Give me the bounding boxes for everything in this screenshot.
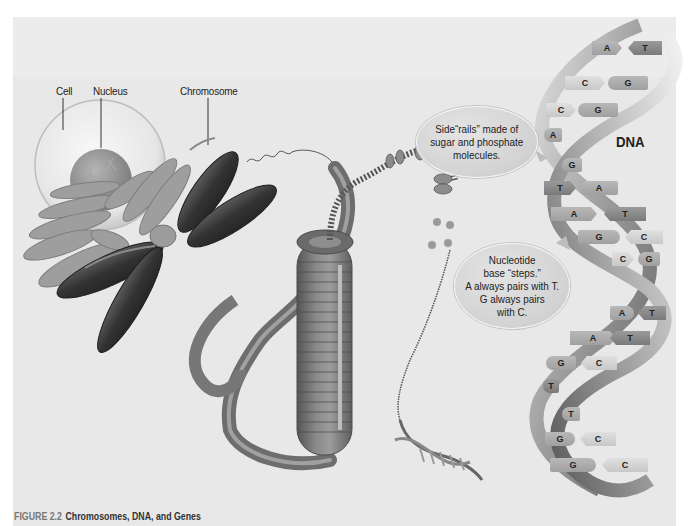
- base-pair-11-right: C: [581, 356, 617, 370]
- base-pair-4-left: G: [562, 158, 582, 172]
- figure-title: Chromosomes, DNA, and Genes: [65, 511, 200, 522]
- cell-label: Cell: [56, 85, 72, 97]
- base-pair-10-left: A: [570, 331, 616, 345]
- dna-label: DNA: [616, 133, 645, 150]
- side-rails-callout: Side“rails” made of sugar and phosphate …: [416, 106, 538, 178]
- base-pair-7-left: G: [578, 230, 620, 244]
- base-pair-15-right: C: [602, 458, 648, 472]
- side-rails-callout-text: Side“rails” made of sugar and phosphate …: [430, 123, 523, 162]
- base-pair-15-left: G: [550, 458, 596, 472]
- base-pair-9-left: A: [610, 306, 634, 320]
- base-pair-5-right: A: [580, 181, 618, 195]
- base-pair-8-right: G: [638, 252, 660, 266]
- base-pair-2-right: G: [578, 103, 618, 117]
- base-pair-1-right: G: [608, 76, 648, 90]
- base-pair-2-left: C: [546, 103, 576, 117]
- figure-caption: FIGURE 2.2Chromosomes, DNA, and Genes: [14, 511, 201, 522]
- base-pair-13-left: T: [562, 407, 580, 421]
- base-pair-9-right: T: [638, 306, 666, 320]
- base-pair-6-left: A: [551, 207, 597, 221]
- small-dna-helix: [395, 420, 482, 480]
- base-pair-1-left: C: [565, 76, 605, 90]
- nucleus-label: Nucleus: [93, 85, 128, 97]
- base-pair-14-right: C: [580, 432, 616, 446]
- base-pair-12-left: T: [543, 379, 559, 393]
- base-pair-6-right: T: [604, 207, 646, 221]
- chromosome-label: Chromosome: [180, 85, 238, 97]
- base-pair-11-left: G: [546, 356, 576, 370]
- base-pair-7-right: C: [625, 230, 663, 244]
- base-pair-0-left: A: [592, 41, 622, 55]
- figure-number: FIGURE 2.2: [14, 511, 62, 522]
- base-pair-14-left: G: [545, 432, 575, 446]
- base-pair-5-left: T: [544, 181, 576, 195]
- base-pair-0-right: T: [628, 41, 662, 55]
- base-pair-3-left: A: [544, 128, 562, 142]
- base-pair-10-right: T: [610, 331, 650, 345]
- nucleotide-callout: Nucleotide base “steps.” A always pairs …: [454, 243, 570, 329]
- nucleotide-callout-text: Nucleotide base “steps.” A always pairs …: [465, 254, 559, 319]
